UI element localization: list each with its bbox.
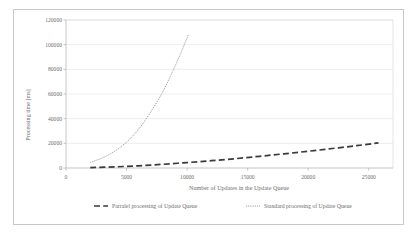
chart-legend: Parralel processing of Update QueueStand… xyxy=(94,203,352,209)
y-axis-title: Processing time [ms] xyxy=(25,89,31,140)
x-tick-label: 5000 xyxy=(121,174,132,180)
gridlines-group xyxy=(66,20,393,143)
y-tick-label: 120000 xyxy=(45,17,62,23)
x-tick-label: 10000 xyxy=(180,174,194,180)
chart-outer-frame: 020000400006000080000100000120000 050001… xyxy=(13,9,404,225)
y-tick-label: 0 xyxy=(59,165,62,171)
legend-item-standard[interactable]: Standard processing of Update Queue xyxy=(246,203,352,209)
series-group xyxy=(90,35,378,168)
x-tick-label: 15000 xyxy=(241,174,255,180)
y-tick-label: 20000 xyxy=(48,140,62,146)
y-tick-label: 40000 xyxy=(48,116,62,122)
x-tick-labels-group: 0500010000150002000025000 xyxy=(65,168,376,180)
series-line-parallel xyxy=(90,143,378,168)
legend-item-parallel[interactable]: Parralel processing of Update Queue xyxy=(94,203,198,209)
y-tick-label: 100000 xyxy=(45,42,62,48)
line-chart: 020000400006000080000100000120000 050001… xyxy=(14,10,403,224)
x-tick-label: 0 xyxy=(65,174,68,180)
y-tick-label: 60000 xyxy=(48,91,62,97)
legend-label-standard: Standard processing of Update Queue xyxy=(264,203,352,209)
x-tick-label: 20000 xyxy=(301,174,315,180)
y-tick-labels-group: 020000400006000080000100000120000 xyxy=(45,17,66,171)
chart-figure: 020000400006000080000100000120000 050001… xyxy=(0,0,419,234)
x-axis-title: Number of Updates in the Update Queue xyxy=(189,185,289,191)
legend-label-parallel: Parralel processing of Update Queue xyxy=(112,203,198,209)
y-tick-label: 80000 xyxy=(48,66,62,72)
x-tick-label: 25000 xyxy=(362,174,376,180)
